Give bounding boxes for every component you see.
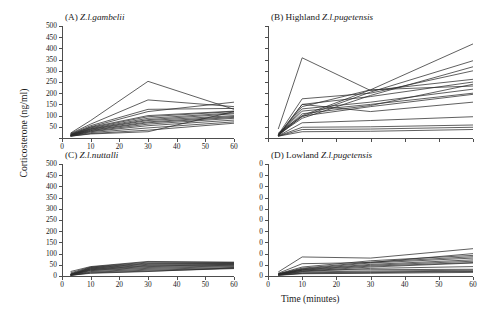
x-tick [302,139,303,142]
panel-a: (A) Z.l.gambelii 50100150200250300350400… [62,14,237,140]
x-tick [405,139,406,142]
panel-c-title: (C) Z.l.nuttalli [65,150,118,160]
x-tick [268,139,269,142]
x-tick-label: 30 [138,143,158,151]
x-tick [439,139,440,142]
y-tick-label: 500 [31,22,57,29]
y-tick-label: 200 [31,228,57,235]
x-tick-label: 60 [463,281,482,289]
x-tick-label: 50 [429,281,449,289]
panel-d-title: (D) Lowland Z.l.pugetensis [271,150,372,160]
series-layer [268,26,473,138]
x-tick-label: 20 [326,281,346,289]
panel-b-title-prefix: (B) Highland [271,12,322,22]
y-tick-label: 300 [31,67,57,74]
y-tick-label: 50 [31,261,57,268]
y-tick-label: 100 [31,112,57,119]
y-tick-label: 150 [31,101,57,108]
panel-d-title-prefix: (D) Lowland [271,150,321,160]
x-tick-label: 60 [224,281,244,289]
series-line [278,61,473,134]
y-tick-label: 0 [237,228,263,235]
y-tick-label: 350 [31,56,57,63]
y-tick-label: 400 [31,45,57,52]
panel-b-title: (B) Highland Z.l.pugetensis [271,12,373,22]
y-tick-label: 150 [31,239,57,246]
panel-b-plot [268,26,473,138]
x-tick-label: 20 [109,281,129,289]
x-tick [371,139,372,142]
x-tick-label: 50 [195,281,215,289]
y-tick-label: 500 [31,160,57,167]
y-tick-label: 350 [31,194,57,201]
y-tick-label: 0 [31,272,57,279]
panel-a-title: (A) Z.l.gambelii [65,12,124,22]
series-line [278,44,473,133]
panel-c-plot: 0501001502002503003504004505000102030405… [62,164,234,276]
x-tick-label: 10 [292,281,312,289]
y-tick-label: 250 [31,78,57,85]
panel-b: (B) Highland Z.l.pugetensis [268,14,476,140]
series-line [278,129,473,136]
y-tick-label: 0 [237,194,263,201]
y-axis-title: Corticosterone (ng/ml) [19,53,29,213]
panel-c-title-species: Z.l.nuttalli [80,150,119,160]
y-tick-label: 50 [31,123,57,130]
x-tick-label: 30 [361,281,381,289]
x-axis-title: Time (minutes) [281,294,340,304]
x-tick-label: 40 [167,143,187,151]
series-layer [62,26,234,138]
x-tick-label: 30 [138,281,158,289]
y-tick-label: 0 [237,172,263,179]
y-tick-label: 0 [237,205,263,212]
y-tick-label: 450 [31,34,57,41]
y-tick-label: 200 [31,90,57,97]
y-tick-label: 0 [237,160,263,167]
x-tick [336,139,337,142]
y-tick-label: 400 [31,183,57,190]
panel-d: (D) Lowland Z.l.pugetensis 0000000000001… [268,152,476,278]
panel-a-plot: 5010015020025030035040045050001020304050… [62,26,234,138]
y-tick-label: 0 [237,250,263,257]
x-tick-label: 60 [224,143,244,151]
panel-d-title-species: Z.l.pugetensis [321,150,372,160]
panel-c: (C) Z.l.nuttalli 05010015020025030035040… [62,152,237,278]
series-layer [62,164,234,276]
panel-a-title-species: Z.l.gambelii [80,12,124,22]
x-tick-label: 40 [167,281,187,289]
x-tick-label: 0 [52,281,72,289]
figure-corticosterone-timecourse: Corticosterone (ng/ml) Time (minutes) (A… [0,0,482,316]
y-tick-label: 100 [31,250,57,257]
y-tick-label: 300 [31,205,57,212]
y-tick-label: 0 [237,272,263,279]
series-line [278,125,473,136]
panel-c-title-prefix: (C) [65,150,80,160]
panel-b-title-species: Z.l.pugetensis [322,12,373,22]
y-tick-label: 250 [31,216,57,223]
y-tick-label: 450 [31,172,57,179]
x-tick-label: 10 [81,281,101,289]
x-tick-label: 50 [195,143,215,151]
y-tick-label: 0 [237,261,263,268]
series-line [278,102,473,136]
series-line [278,58,473,129]
y-tick-label: 0 [237,183,263,190]
x-tick-label: 0 [258,281,278,289]
panel-d-plot: 000000000000102030405060 [268,164,473,276]
y-tick-label: 0 [237,216,263,223]
series-line [278,71,473,135]
x-tick [473,139,474,142]
panel-a-title-prefix: (A) [65,12,80,22]
series-layer [268,164,473,276]
y-tick-label: 0 [237,239,263,246]
x-tick-label: 40 [395,281,415,289]
